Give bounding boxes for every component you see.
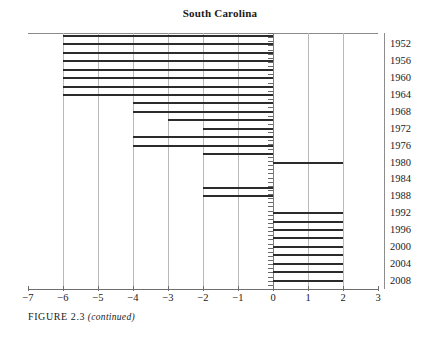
gridline-x-neg2 — [203, 33, 204, 289]
y-tick-label-1980: 1980 — [390, 157, 411, 168]
x-tick-label-2: 2 — [328, 292, 358, 303]
zero-axis-tick — [268, 244, 273, 245]
bar-2006 — [273, 271, 343, 273]
y-axis-tick-labels: 1952195619601964196819721976198019841988… — [390, 33, 440, 295]
zero-axis-tick — [268, 107, 273, 108]
bar-2004 — [273, 263, 343, 265]
zero-axis-tick — [268, 223, 273, 224]
x-tick-mark-neg1 — [238, 286, 239, 291]
bar-1960 — [63, 77, 273, 79]
zero-axis-tick — [268, 182, 273, 183]
bar-1980 — [273, 162, 343, 164]
y-axis-line — [384, 33, 385, 289]
zero-axis-tick — [268, 132, 273, 133]
zero-axis-tick — [268, 202, 273, 203]
zero-axis-tick — [268, 74, 273, 75]
zero-axis-tick — [268, 268, 273, 269]
bar-1972 — [203, 128, 273, 130]
gridline-x-neg1 — [238, 33, 239, 289]
bar-1976 — [133, 145, 273, 147]
figure-caption-label: FIGURE 2.3 — [28, 311, 85, 322]
x-tick-mark-2 — [343, 286, 344, 291]
bar-1994 — [273, 221, 343, 223]
bar-1978 — [203, 153, 273, 155]
zero-axis-tick — [268, 157, 273, 158]
y-tick-label-1968: 1968 — [390, 106, 411, 117]
y-tick-label-2004: 2004 — [390, 258, 411, 269]
zero-axis-tick — [268, 124, 273, 125]
y-tick-label-1988: 1988 — [390, 190, 411, 201]
bar-1970 — [168, 119, 273, 121]
zero-axis-tick — [268, 116, 273, 117]
zero-axis-tick — [268, 252, 273, 253]
bar-1964 — [63, 94, 273, 96]
x-tick-mark-neg7 — [28, 286, 29, 291]
y-tick-label-1996: 1996 — [390, 224, 411, 235]
gridline-x-neg4 — [133, 33, 134, 289]
bar-1988 — [203, 195, 273, 197]
x-tick-mark-neg6 — [63, 286, 64, 291]
x-tick-mark-1 — [308, 286, 309, 291]
zero-axis-tick — [268, 149, 273, 150]
zero-axis-tick — [268, 178, 273, 179]
bar-2008 — [273, 280, 343, 282]
zero-axis-tick — [268, 41, 273, 42]
bar-1996 — [273, 229, 343, 231]
zero-axis-tick — [268, 235, 273, 236]
zero-axis-tick — [268, 45, 273, 46]
x-tick-label-neg7: −7 — [13, 292, 43, 303]
bar-1998 — [273, 237, 343, 239]
zero-axis-tick — [268, 83, 273, 84]
zero-axis-tick — [268, 190, 273, 191]
zero-axis-tick — [268, 37, 273, 38]
x-tick-label-neg4: −4 — [118, 292, 148, 303]
x-tick-label-neg5: −5 — [83, 292, 113, 303]
zero-axis-tick — [268, 277, 273, 278]
zero-axis-tick — [268, 227, 273, 228]
bar-1954 — [63, 52, 273, 54]
gridline-x-2 — [343, 33, 344, 289]
x-tick-mark-neg4 — [133, 286, 134, 291]
x-tick-label-3: 3 — [363, 292, 393, 303]
zero-axis-tick — [268, 169, 273, 170]
y-tick-label-1952: 1952 — [390, 38, 411, 49]
zero-axis-tick — [268, 66, 273, 67]
figure-caption: FIGURE 2.3 (continued) — [28, 311, 135, 322]
x-tick-label-neg1: −1 — [223, 292, 253, 303]
zero-axis-tick — [268, 215, 273, 216]
zero-axis-tick — [268, 198, 273, 199]
gridline-x-neg6 — [63, 33, 64, 289]
gridline-x-neg3 — [168, 33, 169, 289]
zero-axis-tick — [268, 58, 273, 59]
zero-axis-tick — [268, 260, 273, 261]
y-tick-label-2008: 2008 — [390, 275, 411, 286]
plot-area — [28, 33, 378, 289]
bar-1974 — [133, 136, 273, 138]
x-tick-mark-neg5 — [98, 286, 99, 291]
x-tick-label-neg3: −3 — [153, 292, 183, 303]
zero-axis-tick — [268, 140, 273, 141]
y-tick-label-1992: 1992 — [390, 207, 411, 218]
chart-title: South Carolina — [0, 7, 440, 19]
zero-axis-tick — [268, 99, 273, 100]
x-tick-mark-neg3 — [168, 286, 169, 291]
bar-1952 — [63, 43, 273, 45]
bar-1956 — [63, 60, 273, 62]
y-tick-label-1956: 1956 — [390, 55, 411, 66]
x-axis-tick-labels: −7−6−5−4−3−2−10123 — [28, 292, 378, 308]
y-tick-label-1972: 1972 — [390, 123, 411, 134]
bar-1962 — [63, 86, 273, 88]
y-tick-label-1984: 1984 — [390, 173, 411, 184]
figure-caption-note: (continued) — [88, 312, 135, 322]
bar-1968 — [133, 111, 273, 113]
y-tick-label-1964: 1964 — [390, 89, 411, 100]
figure-root: South Carolina −7−6−5−4−3−2−10123 195219… — [0, 0, 440, 337]
x-tick-mark-neg2 — [203, 286, 204, 291]
x-tick-label-0: 0 — [258, 292, 288, 303]
bar-2002 — [273, 254, 343, 256]
bar-1958 — [63, 69, 273, 71]
zero-axis-tick — [268, 206, 273, 207]
zero-axis-tick — [268, 239, 273, 240]
bar-2000 — [273, 246, 343, 248]
zero-axis-tick — [268, 231, 273, 232]
